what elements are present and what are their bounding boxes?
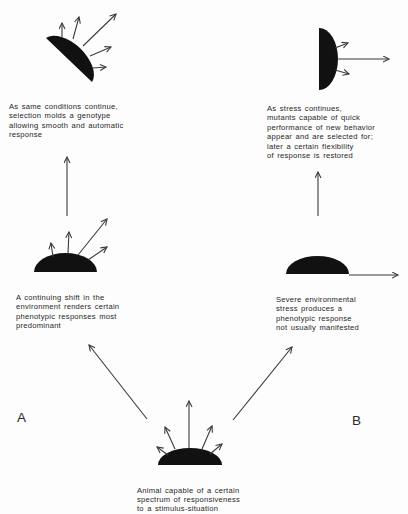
response-arrow [83,14,116,46]
response-arrow [210,444,222,454]
response-arrow [90,47,111,56]
dome-shape [158,448,222,465]
panel-label-b: B [352,414,361,428]
evolution-diagram: As same conditions continue, selection m… [0,0,408,514]
caption-line: A continuing shift in the [16,293,119,302]
response-arrow [202,426,212,449]
caption-line: mutants capable of quick [267,113,375,122]
caption-line: selection molds a genotype [9,111,124,120]
caption-start: Animal capable of a certain spectrum of … [137,487,240,513]
caption-line: later a certain flexibility [267,142,375,151]
node-b2-organism [319,28,389,90]
caption-line: As same conditions continue, [9,102,124,111]
node-a2-organism [46,14,116,82]
caption-line: allowing smooth and automatic [9,121,124,130]
caption-line: Severe environmental [276,295,359,304]
caption-line: phenotypic response [276,314,359,323]
node-a1-organism [34,219,107,272]
caption-b2: As stress continues, mutants capable of … [267,104,375,160]
response-arrow [165,427,175,449]
caption-line: phenotypic responses most [16,312,119,321]
response-arrow [88,247,107,260]
panel-label-a: A [17,411,26,425]
dome-shape [319,28,338,90]
caption-b1: Severe environmental stress produces a p… [276,295,359,333]
caption-line: not usually manifested [276,323,359,332]
response-arrow [335,43,348,48]
dome-shape [34,253,97,272]
caption-line: appear and are selected for; [267,132,375,141]
caption-line: to a stimulus-situation [137,505,240,514]
node-start-organism [157,401,222,465]
caption-line: As stress continues, [267,104,375,113]
transition-arrow-start-to-a1 [89,345,147,419]
response-arrow [335,70,349,74]
caption-line: environment renders certain [16,302,119,311]
response-arrow [157,447,168,455]
caption-line: of response is restored [267,151,375,160]
transition-arrow-start-to-b1 [233,347,292,420]
response-arrow [93,67,106,68]
caption-line: predominant [16,321,119,330]
response-arrow [68,232,69,253]
response-arrow [73,17,79,39]
caption-line: response [9,130,124,139]
caption-line: performance of new behavior [267,123,375,132]
caption-line: stress produces a [276,304,359,313]
diagram-graphics [0,0,408,514]
node-b1-organism [286,256,398,275]
caption-a1: A continuing shift in the environment re… [16,293,119,331]
caption-a2: As same conditions continue, selection m… [9,102,124,140]
dome-shape [286,256,349,274]
